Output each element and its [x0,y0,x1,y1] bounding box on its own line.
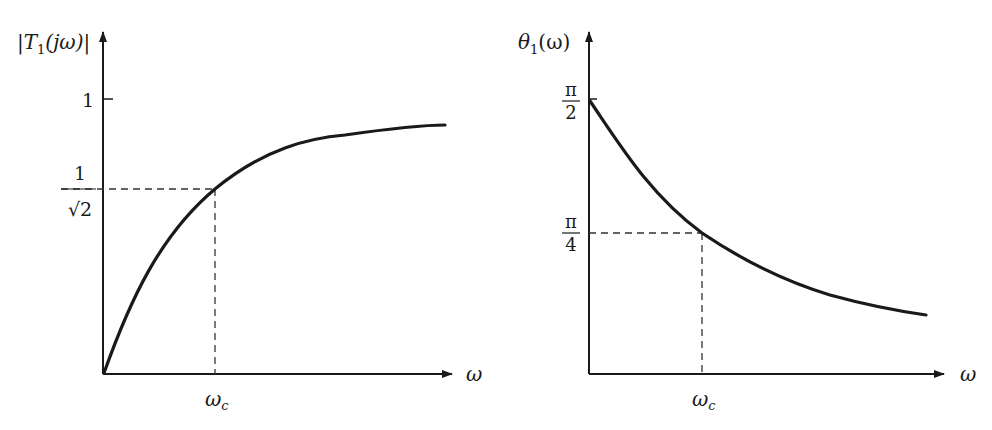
magnitude-curve [104,125,445,373]
tick-label-pi4-den: 4 [565,234,576,255]
tick-label-one: 1 [82,89,94,111]
x-axis-label-left: ω [466,362,482,386]
phase-curve [590,101,926,315]
y-axis-label-left: |T1(jω)| [17,30,90,57]
tick-label-inv-sqrt2-num: 1 [74,163,85,184]
figure-canvas: |T1(jω)| 1 1 √2 ωc ω θ1(ω) π 2 π 4 ωc [0,0,992,430]
tick-label-pi4-num: π [565,211,577,232]
tick-label-pi2-den: 2 [565,102,576,123]
x-tick-label-omega-c-right: ωc [692,387,716,413]
x-tick-label-omega-c-left: ωc [205,387,229,413]
tick-label-pi2-num: π [565,79,577,100]
x-axis-label-right: ω [960,362,976,386]
magnitude-plot: |T1(jω)| 1 1 √2 ωc ω [17,30,482,413]
phase-plot: θ1(ω) π 2 π 4 ωc ω [518,30,976,413]
tick-label-inv-sqrt2-den: √2 [68,198,92,220]
y-axis-label-right: θ1(ω) [518,30,570,57]
